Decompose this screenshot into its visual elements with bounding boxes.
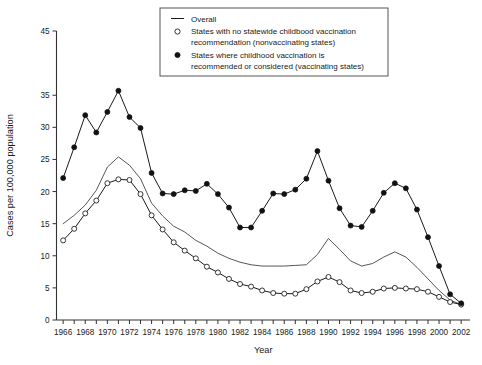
x-ticklabel: 1978 [187, 328, 206, 337]
data-point [171, 240, 176, 245]
data-point [105, 109, 110, 114]
x-ticklabel: 1998 [408, 328, 427, 337]
data-point [249, 225, 254, 230]
legend-label-overall: Overall [191, 15, 217, 24]
data-point [459, 301, 464, 306]
data-point [138, 192, 143, 197]
filled-circle-icon [175, 52, 180, 57]
data-point [226, 205, 231, 210]
x-ticklabel: 1996 [386, 328, 405, 337]
data-point [193, 188, 198, 193]
line-chart-svg: 0510152025303545 19661968197019721974197… [0, 0, 482, 365]
x-ticklabel: 1966 [54, 328, 73, 337]
data-point [72, 145, 77, 150]
data-point [315, 149, 320, 154]
y-axis-title: Cases per 100,000 population [5, 114, 15, 237]
data-point [414, 287, 419, 292]
chart-legend: Overall States with no statewide childbo… [160, 8, 388, 76]
data-point [72, 226, 77, 231]
data-point [392, 181, 397, 186]
data-point [226, 276, 231, 281]
y-ticklabel: 0 [45, 316, 50, 325]
y-ticklabel: 45 [40, 27, 50, 36]
x-ticklabel: 2002 [452, 328, 471, 337]
data-point [337, 280, 342, 285]
x-ticklabel: 1972 [120, 328, 139, 337]
data-point [271, 191, 276, 196]
data-point [425, 235, 430, 240]
y-ticklabel: 15 [40, 220, 50, 229]
data-point [337, 206, 342, 211]
data-point [425, 289, 430, 294]
data-point [326, 178, 331, 183]
data-point [94, 130, 99, 135]
y-ticklabel: 35 [40, 91, 50, 100]
data-point [193, 256, 198, 261]
data-point [149, 213, 154, 218]
data-point [61, 238, 66, 243]
data-point [215, 270, 220, 275]
y-ticklabel: 30 [40, 123, 50, 132]
x-ticklabel: 1976 [165, 328, 184, 337]
data-point [204, 181, 209, 186]
y-ticklabel: 25 [40, 155, 50, 164]
data-point [304, 176, 309, 181]
data-point [293, 291, 298, 296]
x-ticklabel: 1968 [76, 328, 95, 337]
data-point [381, 190, 386, 195]
data-point [437, 264, 442, 269]
y-ticklabel: 5 [45, 284, 50, 293]
data-point [348, 223, 353, 228]
data-point [238, 225, 243, 230]
data-point [94, 198, 99, 203]
legend-label-vaccinating-line1: States where childhood vaccination is [191, 51, 324, 60]
data-point [381, 286, 386, 291]
x-ticklabel: 1986 [275, 328, 294, 337]
data-point [359, 224, 364, 229]
data-point [182, 188, 187, 193]
x-ticklabel: 1994 [364, 328, 383, 337]
data-point [160, 191, 165, 196]
data-point [282, 291, 287, 296]
data-point [182, 248, 187, 253]
x-ticklabel: 1988 [297, 328, 316, 337]
x-ticklabel: 1974 [142, 328, 161, 337]
x-ticklabel: 1992 [341, 328, 360, 337]
data-point [160, 227, 165, 232]
data-point [370, 289, 375, 294]
data-point [403, 286, 408, 291]
data-point [293, 187, 298, 192]
data-point [315, 279, 320, 284]
data-point [127, 115, 132, 120]
data-point [83, 211, 88, 216]
y-ticklabel: 10 [40, 252, 50, 261]
data-point [437, 294, 442, 299]
data-point [370, 208, 375, 213]
data-point [282, 192, 287, 197]
data-point [260, 208, 265, 213]
data-point [61, 176, 66, 181]
data-point [215, 192, 220, 197]
x-ticklabel: 1984 [253, 328, 272, 337]
data-point [116, 88, 121, 93]
data-point [83, 113, 88, 118]
x-ticklabel: 1980 [209, 328, 228, 337]
data-point [238, 282, 243, 287]
data-point [249, 284, 254, 289]
open-circle-icon [175, 29, 180, 34]
data-point [260, 288, 265, 293]
data-point [271, 291, 276, 296]
data-point [304, 287, 309, 292]
x-ticklabel: 2000 [430, 328, 449, 337]
x-ticklabel: 1982 [231, 328, 250, 337]
data-point [448, 292, 453, 297]
legend-label-nonvaccinating-line2: recommendation (nonvaccinating states) [191, 38, 335, 47]
data-point [348, 288, 353, 293]
data-point [403, 186, 408, 191]
chart-figure: 0510152025303545 19661968197019721974197… [0, 0, 482, 365]
x-axis-title: Year [254, 345, 273, 355]
data-point [171, 192, 176, 197]
data-point [204, 264, 209, 269]
legend-label-nonvaccinating-line1: States with no statewide childbood vacci… [191, 27, 356, 36]
legend-label-vaccinating-line2: recommended or considered (vaccinating s… [191, 62, 364, 71]
